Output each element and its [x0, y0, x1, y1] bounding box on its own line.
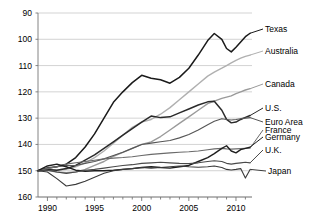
series-label-u-k: U.K.	[265, 145, 282, 155]
y-tick-label: 120	[8, 87, 32, 97]
series-line-canada	[38, 89, 250, 173]
x-tick-label: 1995	[75, 203, 115, 213]
y-tick-label: 150	[8, 166, 32, 176]
y-tick-label: 90	[8, 8, 32, 18]
series-leader-line	[250, 169, 266, 171]
series-label-germany: Germany	[265, 132, 300, 142]
series-label-texas: Texas	[265, 24, 287, 34]
y-tick-label: 100	[8, 34, 32, 44]
series-label-u-s: U.S.	[265, 103, 282, 113]
series-leader-line	[250, 108, 263, 116]
series-leader-line	[250, 118, 263, 122]
series-leader-line	[250, 51, 263, 55]
series-line-u-s	[38, 101, 250, 170]
series-leader-line	[250, 150, 263, 163]
y-tick-label: 130	[8, 113, 32, 123]
series-leader-line	[250, 29, 263, 33]
series-label-australia: Australia	[265, 46, 298, 56]
x-tick-label: 2010	[216, 203, 256, 213]
y-tick-label: 140	[8, 139, 32, 149]
series-leader-line	[250, 84, 263, 89]
series-line-australia	[38, 55, 250, 171]
x-tick-label: 2005	[169, 203, 209, 213]
series-label-canada: Canada	[265, 79, 295, 89]
line-chart: 16015014013012011010090 1990199520002005…	[0, 0, 311, 224]
x-tick-label: 1990	[27, 203, 67, 213]
y-tick-label: 110	[8, 61, 32, 71]
y-tick-label: 160	[8, 192, 32, 202]
series-label-japan: Japan	[268, 166, 291, 176]
x-tick-label: 2000	[122, 203, 162, 213]
